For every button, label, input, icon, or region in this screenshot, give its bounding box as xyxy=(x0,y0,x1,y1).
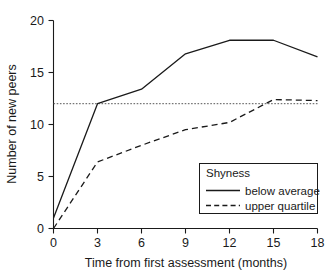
line-chart: 0 5 10 15 20 0 3 6 9 12 15 18 Time from … xyxy=(0,0,335,278)
y-axis-ticks: 0 5 10 15 20 xyxy=(30,14,53,236)
chart-container: 0 5 10 15 20 0 3 6 9 12 15 18 Time from … xyxy=(0,0,335,278)
legend-label-below-average: below average xyxy=(245,185,320,197)
y-tick-label-0: 0 xyxy=(37,222,44,236)
y-tick-label-15: 15 xyxy=(30,66,44,80)
x-tick-label-3: 3 xyxy=(94,236,101,250)
y-tick-label-10: 10 xyxy=(30,118,44,132)
y-axis-title: Number of new peers xyxy=(5,64,19,184)
x-tick-label-15: 15 xyxy=(267,236,281,250)
x-tick-label-12: 12 xyxy=(223,236,237,250)
x-tick-label-9: 9 xyxy=(182,236,189,250)
y-tick-label-5: 5 xyxy=(37,170,44,184)
legend-title: Shyness xyxy=(206,167,250,179)
x-tick-label-18: 18 xyxy=(311,236,325,250)
legend: Shyness below average upper quartile xyxy=(200,164,320,214)
x-tick-label-0: 0 xyxy=(50,236,57,250)
x-axis-title: Time from first assessment (months) xyxy=(85,256,287,270)
y-tick-label-20: 20 xyxy=(30,14,44,28)
x-tick-label-6: 6 xyxy=(138,236,145,250)
x-axis-ticks: 0 3 6 9 12 15 18 xyxy=(50,229,324,251)
legend-label-upper-quartile: upper quartile xyxy=(245,200,315,212)
